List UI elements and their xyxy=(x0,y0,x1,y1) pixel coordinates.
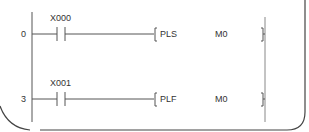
instruction-operand: M0 xyxy=(215,29,228,39)
ladder-diagram: 0 X000 PLS M0 3 X001 PLF M0 xyxy=(0,0,309,132)
instruction-mnemonic: PLF xyxy=(160,94,177,104)
frame-border-bottom-left-curve xyxy=(0,106,30,130)
contact-device-label: X000 xyxy=(50,13,71,23)
instruction-open-bracket xyxy=(155,93,157,106)
instruction-operand: M0 xyxy=(215,94,228,104)
instruction-close-bracket xyxy=(261,93,263,106)
instruction-close-bracket xyxy=(261,28,263,41)
rung-0 xyxy=(32,27,265,41)
instruction-mnemonic: PLS xyxy=(160,29,177,39)
step-number: 0 xyxy=(21,29,26,39)
instruction-open-bracket xyxy=(155,28,157,41)
ladder-diagram-graphic xyxy=(0,0,309,132)
rung-3 xyxy=(32,92,265,106)
step-number: 3 xyxy=(21,94,26,104)
contact-device-label: X001 xyxy=(50,78,71,88)
